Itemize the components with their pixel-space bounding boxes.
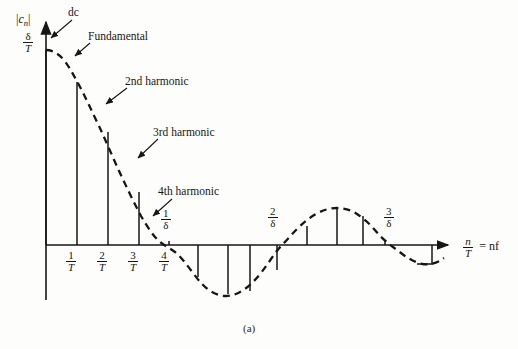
zero-1-denominator: δ xyxy=(161,219,171,231)
x-tick-2-over-T: 2 T xyxy=(97,250,107,273)
annotation-3rd-harmonic: 3rd harmonic xyxy=(153,126,215,138)
figure-caption: (a) xyxy=(243,322,255,334)
x-tick-1-over-T: 1 T xyxy=(66,250,76,273)
zero-crossing-3-over-delta: 3 δ xyxy=(384,206,394,229)
zero-1-numerator: 1 xyxy=(161,208,171,219)
spectrum-figure: |cn| δ T dc Fundamental 2nd harmonic 3rd… xyxy=(0,0,518,349)
annotation-dc: dc xyxy=(68,6,79,18)
y-axis-value-denominator: T xyxy=(23,42,33,54)
annotation-fundamental: Fundamental xyxy=(88,30,148,42)
zero-2-denominator: δ xyxy=(268,217,278,229)
y-axis-bar-right: | xyxy=(28,12,30,26)
x-tick-1-numerator: 1 xyxy=(66,250,76,261)
y-axis-value-delta-over-T: δ T xyxy=(23,31,33,54)
zero-3-denominator: δ xyxy=(384,217,394,229)
x-tick-2-numerator: 2 xyxy=(97,250,107,261)
spectral-lines-negative-lobe-1 xyxy=(198,245,277,294)
y-axis-label: |cn| xyxy=(16,12,30,28)
x-tick-2-denominator: T xyxy=(97,261,107,273)
spectral-line-far-right xyxy=(417,245,433,264)
annotation-leaders xyxy=(51,20,172,216)
zero-crossing-2-over-delta: 2 δ xyxy=(268,206,278,229)
spectral-lines-positive-lobe-2 xyxy=(307,209,385,245)
x-axis-label-equals: = nf xyxy=(479,239,499,253)
x-tick-4-over-T: 4 T xyxy=(159,250,169,273)
x-axis-label-numerator: n xyxy=(463,236,473,247)
zero-3-numerator: 3 xyxy=(384,206,394,217)
zero-crossing-1-over-delta: 1 δ xyxy=(161,208,171,231)
annotation-2nd-harmonic: 2nd harmonic xyxy=(125,75,189,87)
zero-2-numerator: 2 xyxy=(268,206,278,217)
x-tick-3-over-T: 3 T xyxy=(128,250,138,273)
x-tick-1-denominator: T xyxy=(66,261,76,273)
x-tick-4-numerator: 4 xyxy=(159,250,169,261)
annotation-4th-harmonic: 4th harmonic xyxy=(158,185,219,197)
x-axis-label-denominator: T xyxy=(463,247,473,259)
x-tick-3-denominator: T xyxy=(128,261,138,273)
x-axis-label-fraction: n T xyxy=(463,236,473,259)
x-tick-4-denominator: T xyxy=(159,261,169,273)
spectrum-plot xyxy=(0,0,518,349)
x-tick-3-numerator: 3 xyxy=(128,250,138,261)
y-axis-value-numerator: δ xyxy=(23,31,33,42)
x-axis-label: n T = nf xyxy=(463,236,499,259)
